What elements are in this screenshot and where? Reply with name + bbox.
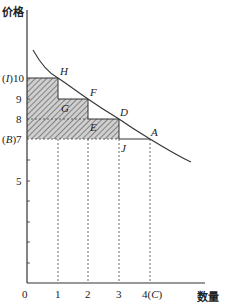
- x-tick-0: 0: [22, 288, 28, 300]
- point-label-F: F: [89, 86, 97, 98]
- consumer-surplus-shaded-area: [27, 78, 119, 139]
- dashed-guides: [27, 119, 150, 283]
- y-tick-9: 9: [16, 93, 22, 105]
- point-label-E: E: [89, 121, 97, 133]
- y-tick-7: (B)7: [2, 133, 22, 146]
- point-label-G: G: [61, 102, 69, 114]
- x-tick-2: 2: [85, 288, 91, 300]
- axes: [27, 10, 205, 283]
- y-axis-label: 价格: [2, 5, 25, 19]
- x-tick-4: 4(C): [142, 288, 163, 301]
- shaded-step-1: [27, 78, 58, 139]
- x-axis-label: 数量: [197, 290, 219, 304]
- x-tick-1: 1: [55, 288, 61, 300]
- point-label-H: H: [59, 65, 69, 77]
- y-tick-5: 5: [16, 175, 22, 187]
- price-quantity-diagram: 价格 数量 (I)10 9 8 (B)7 5 0 1 2 3 4(C) H G …: [0, 0, 225, 308]
- point-label-A: A: [150, 126, 158, 138]
- point-label-J: J: [121, 142, 127, 154]
- y-tick-8: 8: [16, 113, 22, 125]
- point-label-D: D: [119, 106, 128, 118]
- y-tick-10: (I)10: [2, 72, 25, 85]
- x-tick-3: 3: [116, 288, 122, 300]
